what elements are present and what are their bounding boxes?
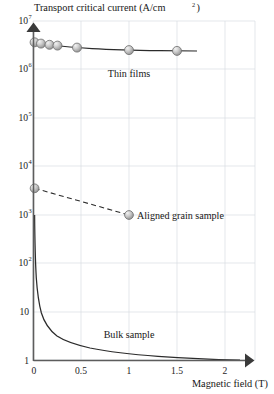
y-tick-1: 1 (24, 355, 29, 366)
y-tick-1e7: 10 (18, 15, 28, 26)
y-tick-1e3: 10 (18, 209, 28, 220)
x-tick-1-5: 1.5 (171, 365, 183, 376)
x-axis-title: Magnetic field (T) (192, 378, 268, 390)
y-tick-1e6: 10 (18, 63, 28, 74)
x-tick-0-5: 0.5 (75, 365, 87, 376)
y-tick-1e7-exp: 7 (29, 13, 33, 20)
y-tick-1e2-exp: 2 (29, 255, 32, 262)
y-tick-1e4-exp: 4 (29, 158, 33, 165)
y-tick-1e5-exp: 5 (29, 110, 32, 117)
figure-container: 10 7 10 6 10 5 10 4 10 3 10 2 10 1 0 0.5… (0, 0, 274, 394)
y-axis-title-exponent: 2 (192, 1, 195, 8)
x-tick-2: 2 (223, 365, 228, 376)
x-tick-labels: 0 0.5 1 1.5 2 (32, 365, 228, 376)
y-axis-title-text: Transport critical current (A/cm (34, 2, 165, 14)
annotation-thin-films: Thin films (108, 68, 150, 79)
y-axis-title-paren: ) (197, 2, 200, 14)
critical-current-chart: 10 7 10 6 10 5 10 4 10 3 10 2 10 1 0 0.5… (0, 0, 274, 394)
x-tick-0: 0 (32, 365, 37, 376)
y-tick-10: 10 (19, 306, 29, 317)
y-tick-1e5: 10 (18, 112, 28, 123)
y-tick-1e2: 10 (18, 257, 28, 268)
y-tick-1e3-exp: 3 (29, 207, 32, 214)
annotation-bulk-sample: Bulk sample (104, 329, 155, 340)
y-axis-title: Transport critical current (A/cm 2 ) (34, 1, 200, 15)
annotation-aligned-grain-sample: Aligned grain sample (137, 210, 224, 221)
x-tick-1: 1 (127, 365, 132, 376)
y-tick-1e6-exp: 6 (29, 61, 32, 68)
y-tick-1e4: 10 (18, 160, 28, 171)
